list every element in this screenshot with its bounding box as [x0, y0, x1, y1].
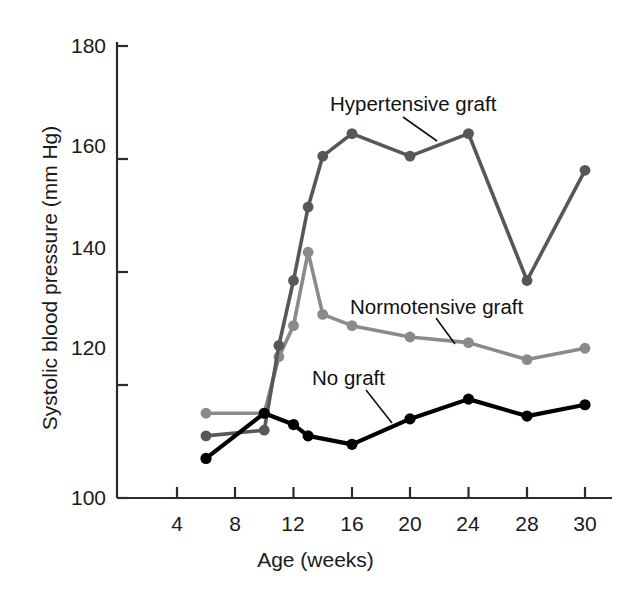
data-point	[288, 275, 299, 286]
data-point	[580, 165, 591, 176]
data-point	[580, 343, 591, 354]
data-point	[346, 439, 357, 450]
data-point	[201, 408, 212, 419]
leader-line	[403, 117, 437, 141]
annotation-leader-lines	[366, 117, 455, 423]
series-no-graft	[200, 394, 590, 465]
data-point	[288, 419, 299, 430]
data-point	[317, 151, 328, 162]
data-point	[317, 309, 328, 320]
data-point	[288, 320, 299, 331]
data-point	[405, 332, 416, 343]
axis-lines	[117, 42, 612, 498]
data-point	[463, 337, 474, 348]
data-point	[463, 394, 474, 405]
chart-figure: Systolic blood pressure (mm Hg) Age (wee…	[0, 0, 631, 590]
data-point	[259, 408, 270, 419]
data-series-layer	[200, 128, 590, 464]
data-point	[303, 247, 314, 258]
data-point	[579, 399, 590, 410]
series-hypertensive-graft	[201, 128, 591, 441]
data-point	[404, 413, 415, 424]
data-point	[273, 340, 284, 351]
data-point	[347, 320, 358, 331]
data-point	[201, 430, 212, 441]
data-point	[303, 202, 314, 213]
y-axis-ticks	[117, 46, 128, 498]
data-point	[522, 275, 533, 286]
leader-line	[366, 390, 392, 423]
data-point	[463, 128, 474, 139]
data-point	[405, 151, 416, 162]
data-point	[347, 128, 358, 139]
plot-area	[0, 0, 631, 590]
data-point	[521, 410, 532, 421]
data-point	[259, 425, 270, 436]
data-point	[200, 453, 211, 464]
data-point	[522, 354, 533, 365]
x-axis-ticks	[177, 487, 585, 498]
data-point	[303, 430, 314, 441]
